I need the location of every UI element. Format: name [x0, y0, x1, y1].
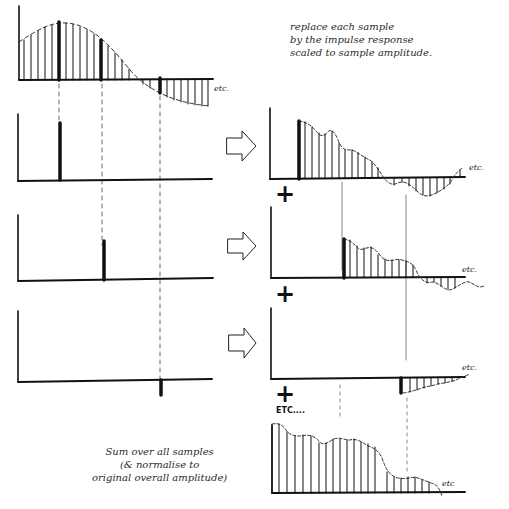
etc-label: etc. — [469, 163, 484, 172]
note-line: replace each sample — [290, 20, 432, 33]
note-line: Sum over all samples — [92, 445, 227, 458]
plus-icon: + — [275, 184, 295, 204]
note-line: (& normalise to — [92, 458, 227, 471]
etc-label: etc. — [214, 84, 229, 93]
arrow-right-icon — [227, 131, 256, 161]
instruction-note: replace each sample by the impulse respo… — [290, 20, 432, 59]
sample-3-panel — [18, 311, 212, 395]
etc-label: etc — [442, 479, 454, 488]
response-1-panel — [270, 108, 465, 196]
etc-label: etc. — [462, 265, 477, 274]
plus-icon: + — [275, 284, 295, 304]
etc-more-label: ETC.... — [276, 406, 305, 415]
plus-icon: + — [275, 384, 295, 404]
arrow-right-icon — [229, 328, 256, 358]
response-3-panel — [271, 308, 470, 393]
convolution-diagram — [0, 0, 509, 509]
note-line: original overall amplitude) — [92, 471, 227, 484]
sample-1-panel — [18, 114, 212, 181]
guide-lines-right — [342, 182, 406, 360]
note-line: scaled to sample amplitude. — [290, 46, 432, 59]
sum-note: Sum over all samples (& normalise to ori… — [92, 445, 227, 484]
input-signal-panel — [19, 6, 213, 106]
sample-2-panel — [18, 215, 213, 281]
response-2-panel — [271, 207, 484, 290]
etc-label: etc. — [462, 363, 477, 372]
sum-output-panel — [272, 424, 465, 496]
note-line: by the impulse response — [290, 33, 432, 46]
arrow-right-icon — [228, 232, 256, 260]
guide-lines — [59, 84, 160, 382]
